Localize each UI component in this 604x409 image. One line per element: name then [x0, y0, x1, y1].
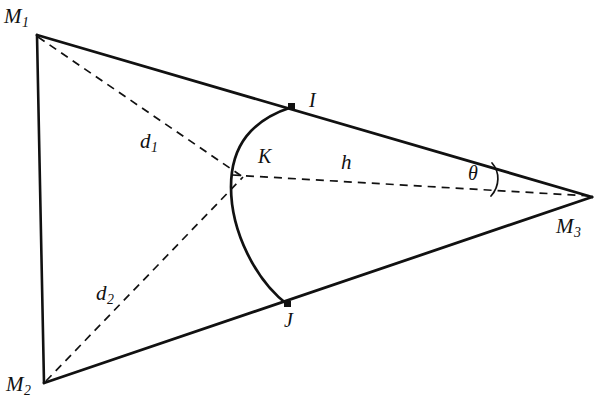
diagram-canvas: [0, 0, 604, 409]
solid-edges-group: [37, 35, 592, 383]
label-M1: M1: [4, 6, 29, 30]
dashed-h-segment: [232, 175, 590, 196]
edge-M2-M3: [44, 197, 592, 383]
label-M2: M2: [6, 374, 31, 398]
label-theta: θ: [468, 163, 478, 183]
label-M1-sub: 1: [22, 15, 29, 30]
dashed-lines-group: [37, 35, 592, 381]
label-h-base: h: [341, 150, 352, 174]
label-J-base: J: [284, 309, 293, 331]
label-I: I: [309, 90, 316, 110]
label-d1-base: d: [140, 129, 151, 153]
label-M3-sub: 3: [574, 225, 581, 240]
label-I-base: I: [309, 89, 316, 111]
label-M3: M3: [556, 216, 581, 240]
label-d2-base: d: [96, 281, 107, 305]
label-M1-base: M: [4, 4, 22, 28]
label-K-base: K: [258, 145, 271, 167]
edge-M1-M2: [37, 35, 44, 383]
label-d2: d2: [96, 283, 114, 307]
label-M2-base: M: [6, 372, 24, 396]
label-K: K: [258, 146, 271, 166]
label-M2-sub: 2: [24, 383, 31, 398]
arc-I-K-J: [231, 107, 292, 305]
label-J: J: [284, 310, 293, 330]
label-h: h: [341, 152, 352, 173]
point-marker-J: [284, 301, 291, 307]
label-M3-base: M: [556, 214, 574, 238]
label-d2-sub: 2: [107, 292, 114, 307]
dashed-d2-segment: [46, 177, 243, 381]
geometry-diagram: M1 M2 M3 d1 d2 h I J K θ: [0, 0, 604, 409]
label-theta-base: θ: [468, 162, 478, 184]
point-marker-I: [288, 103, 295, 109]
label-d1-sub: 1: [151, 140, 158, 155]
dashed-d1-segment: [38, 37, 243, 177]
label-d1: d1: [140, 131, 158, 155]
